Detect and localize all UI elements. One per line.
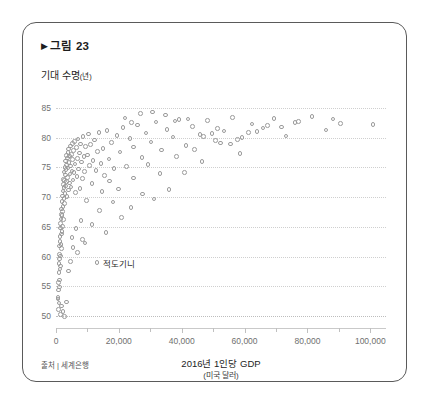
scatter-point [58,264,63,269]
y-axis-tick-label: 75 [42,162,51,172]
scatter-point [74,145,79,150]
scatter-point [88,142,93,147]
scatter-point [111,200,116,205]
x-axis-tick-label: 40,000 [169,336,195,346]
scatter-point [60,209,65,214]
scatter-point [57,285,62,290]
scatter-point [57,270,62,275]
x-axis-tick [56,328,57,333]
scatter-point [235,137,240,142]
scatter-point [131,145,136,150]
scatter-point [107,157,112,162]
scatter-point [80,176,85,181]
scatter-point [73,162,78,167]
scatter-point [331,117,336,122]
scatter-point [192,147,197,152]
scatter-point [140,192,145,197]
scatter-point [150,110,155,115]
scatter-plot-area: 5055606570758085 020,00040,00060,00080,0… [56,96,386,328]
x-axis-minor-tick [339,328,340,332]
gridline [56,316,386,317]
triangle-bullet-icon: ▶ [41,41,48,51]
scatter-point [210,131,215,136]
x-axis-tick-label: 60,000 [232,336,258,346]
scatter-point [255,129,260,134]
scatter-point [174,154,179,159]
scatter-point [66,269,71,274]
scatter-point [91,158,96,163]
scatter-point [279,125,284,130]
scatter-point [97,208,102,213]
x-axis-tick-label: 20,000 [106,336,132,346]
scatter-point [62,201,67,206]
scatter-point [107,179,112,184]
scatter-point [213,138,218,143]
gridline [56,167,386,168]
scatter-point [70,235,75,240]
scatter-point [81,134,86,139]
x-axis-tick [307,328,308,333]
scatter-point [109,140,114,145]
scatter-point [64,300,69,305]
x-axis-tick [182,328,183,333]
scatter-point [131,176,136,181]
scatter-point [310,114,315,119]
scatter-point [265,123,270,128]
scatter-point [82,169,87,174]
x-axis-title-sub: (미국 달러) [56,371,386,382]
gridline [56,197,386,198]
scatter-point [201,134,206,139]
gridline [56,138,386,139]
scatter-point [112,166,117,171]
scatter-point [69,185,74,190]
scatter-point [200,159,205,164]
x-axis-tick-label: 100,000 [355,336,386,346]
scatter-point [159,148,164,153]
scatter-point [167,187,172,192]
scatter-point [218,141,223,146]
scatter-point [184,143,189,148]
scatter-point [90,181,95,186]
scatter-point [246,130,251,135]
scatter-point [116,187,121,192]
x-axis-tick-label: 0 [54,336,59,346]
scatter-point [104,230,109,235]
scatter-point [173,119,178,124]
scatter-point [115,133,120,138]
scatter-point [85,153,90,158]
scatter-point [293,120,298,125]
scatter-point [95,149,100,154]
scatter-point [152,197,157,202]
scatter-point [272,116,277,121]
scatter-point [76,137,81,142]
scatter-point [71,245,76,250]
scatter-point [58,312,63,317]
scatter-point [97,130,102,135]
figure-card: ▶그림 23 기대 수명(년) 5055606570758085 020,000… [22,22,407,382]
scatter-point [146,162,151,167]
scatter-point [77,151,82,156]
x-axis-title-text: 2016년 1인당 GDP [181,358,260,369]
scatter-point [296,119,301,124]
scatter-point [154,120,159,125]
scatter-point [75,250,80,255]
scatter-point [94,168,99,173]
scatter-point [128,136,133,141]
x-axis-tick [245,328,246,333]
scatter-point [124,164,129,169]
scatter-point [83,144,88,149]
scatter-point [118,150,123,155]
scatter-point [163,113,168,118]
scatter-point [75,174,80,179]
figure-title: ▶그림 23 [41,37,89,53]
annotation-marker [95,260,100,265]
scatter-point [138,111,143,116]
scatter-point [119,215,124,220]
x-axis-tick [370,328,371,333]
scatter-point [58,254,63,259]
x-axis-minor-tick [150,328,151,332]
scatter-point [140,155,145,160]
x-axis-minor-tick [87,328,88,332]
scatter-point [129,205,134,210]
scatter-point [74,226,79,231]
